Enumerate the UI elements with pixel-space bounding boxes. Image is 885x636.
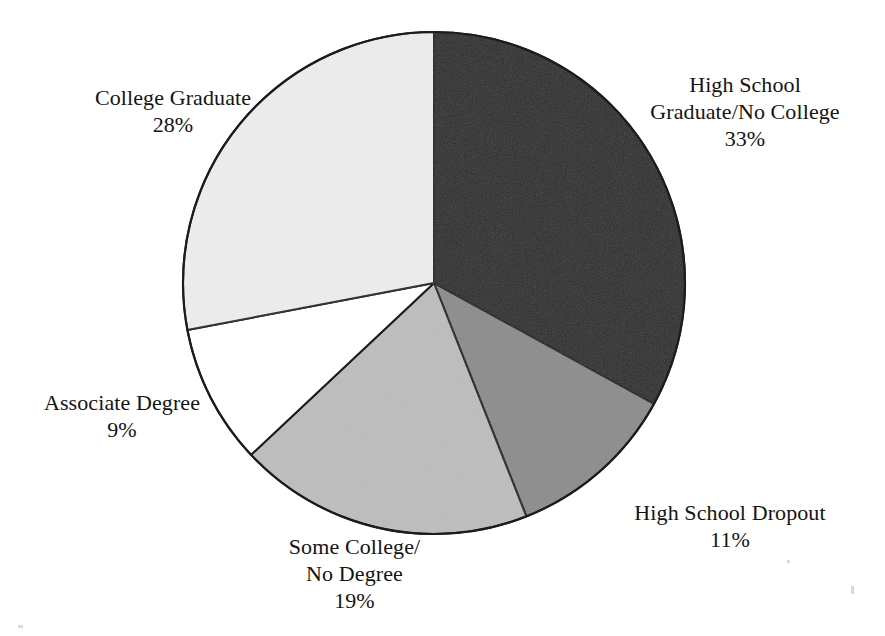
slice-label-some-college: Some College/ No Degree 19% — [232, 534, 477, 614]
scan-speck — [18, 625, 23, 628]
slice-value-high-school-dropout: 11% — [585, 527, 875, 554]
slice-label-line-2: Graduate/No College — [620, 99, 870, 126]
slice-value-associate-degree: 9% — [12, 417, 232, 444]
slice-label-line-1: Some College/ — [232, 534, 477, 561]
slice-label-college-graduate: College Graduate 28% — [48, 85, 298, 139]
slice-label-high-school-dropout: High School Dropout 11% — [585, 500, 875, 554]
slice-label-associate-degree: Associate Degree 9% — [12, 390, 232, 444]
pie-slice-college-grad — [183, 32, 434, 330]
slice-label-high-school-graduate: High School Graduate/No College 33% — [620, 72, 870, 152]
slice-value-college-graduate: 28% — [48, 112, 298, 139]
slice-label-line-1: College Graduate — [48, 85, 298, 112]
scan-speck — [787, 560, 790, 563]
slice-label-line-1: High School Dropout — [585, 500, 875, 527]
slice-value-high-school-graduate: 33% — [620, 126, 870, 153]
slice-label-line-2: No Degree — [232, 561, 477, 588]
slice-label-line-1: Associate Degree — [12, 390, 232, 417]
pie-chart-figure: High School Graduate/No College 33% High… — [0, 0, 885, 636]
slice-value-some-college: 19% — [232, 588, 477, 615]
scan-speck — [851, 586, 854, 594]
slice-label-line-1: High School — [620, 72, 870, 99]
